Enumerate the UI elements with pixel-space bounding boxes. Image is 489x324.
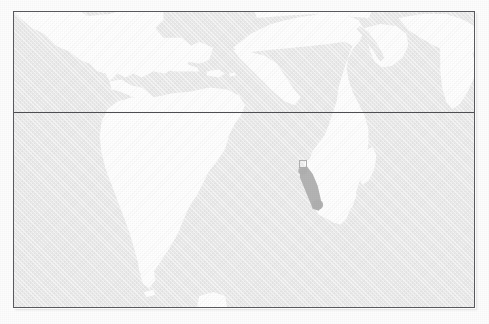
land-lesser-antilles [229, 73, 236, 77]
land-indian-subcontinent [440, 42, 474, 110]
land-hispaniola [206, 70, 225, 78]
gulf-of-guinea-notch [297, 97, 319, 117]
figure-page [0, 0, 489, 324]
world-landmass-layer [14, 12, 474, 307]
map-frame [13, 11, 475, 308]
land-south-america [100, 87, 245, 278]
figure-caption [0, 0, 1, 1]
equator-line [14, 112, 474, 113]
land-west-africa [233, 50, 301, 106]
land-antarctic-tip [197, 292, 227, 307]
land-tierra-del-fuego [143, 290, 155, 297]
land-patagonia [140, 268, 155, 288]
